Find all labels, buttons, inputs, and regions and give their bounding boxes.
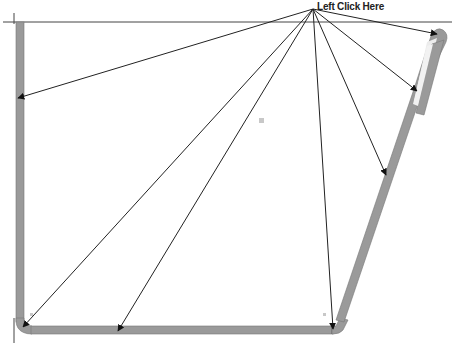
marker-dot-center bbox=[259, 118, 264, 123]
arrow-to-bottom-left-corner bbox=[23, 9, 313, 327]
arrow-to-slanted-wall bbox=[313, 9, 386, 175]
bottom-wall[interactable] bbox=[31, 326, 333, 334]
arrow-group bbox=[18, 9, 437, 331]
left-click-here-label: Left Click Here bbox=[317, 1, 384, 12]
arrow-to-bottom-edge bbox=[118, 9, 313, 331]
slanted-wall[interactable] bbox=[336, 89, 422, 322]
arrow-to-bottom-right-corner bbox=[313, 9, 333, 329]
marker-dot-bottom-right bbox=[323, 313, 326, 316]
left-wall[interactable] bbox=[16, 22, 24, 322]
diagram-canvas bbox=[0, 0, 452, 343]
marker-dot-bottom-left bbox=[30, 313, 33, 316]
arrow-to-inner-slot bbox=[313, 9, 417, 91]
